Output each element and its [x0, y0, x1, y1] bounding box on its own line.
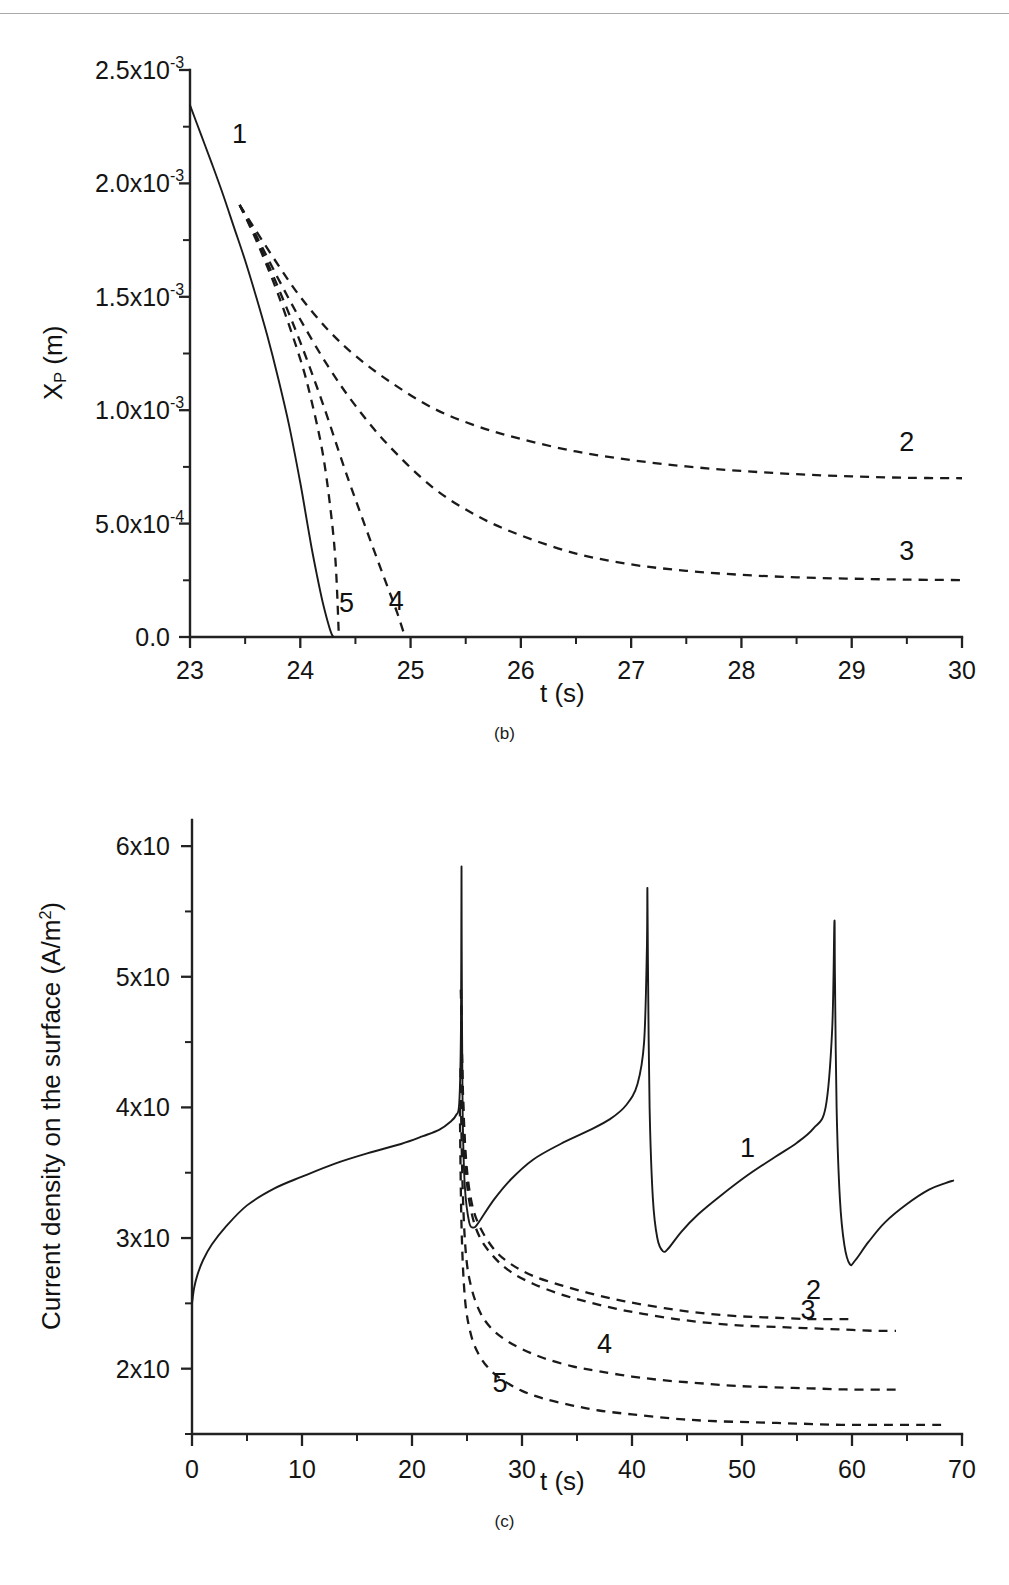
yaxis-b-unit: (m)	[38, 326, 68, 372]
svg-text:70: 70	[948, 1455, 976, 1483]
svg-text:3x10: 3x10	[116, 1224, 170, 1252]
figure-c: 6x105x104x103x102x1001020304050607012345	[0, 760, 1009, 1585]
svg-text:5: 5	[492, 1368, 507, 1398]
curve-2	[461, 990, 852, 1319]
curve-5	[460, 1107, 946, 1425]
svg-text:1: 1	[232, 119, 247, 149]
figure-page: 2.5x10-32.0x10-31.5x10-31.0x10-35.0x10-4…	[0, 0, 1009, 1585]
svg-text:50: 50	[728, 1455, 756, 1483]
svg-text:2.0x10: 2.0x10	[95, 169, 170, 197]
figure-c-caption: (c)	[0, 1512, 1009, 1532]
figure-c-xaxis-title: t (s)	[540, 1466, 585, 1497]
svg-text:1: 1	[740, 1133, 755, 1163]
figure-b: 2.5x10-32.0x10-31.5x10-31.0x10-35.0x10-4…	[0, 0, 1009, 790]
svg-text:2x10: 2x10	[116, 1355, 170, 1383]
svg-text:1.0x10: 1.0x10	[95, 396, 170, 424]
svg-text:3: 3	[899, 536, 914, 566]
figure-b-xaxis-title: t (s)	[540, 678, 585, 709]
svg-text:27: 27	[617, 656, 645, 684]
svg-text:20: 20	[398, 1455, 426, 1483]
yaxis-c-main: Current density on the surface (A/m	[36, 920, 66, 1330]
curve-1	[192, 866, 953, 1303]
svg-text:60: 60	[838, 1455, 866, 1483]
svg-text:40: 40	[618, 1455, 646, 1483]
svg-text:3: 3	[800, 1295, 815, 1325]
svg-text:5.0x10: 5.0x10	[95, 510, 170, 538]
svg-text:28: 28	[728, 656, 756, 684]
svg-text:-3: -3	[170, 281, 184, 298]
svg-text:6x10: 6x10	[116, 832, 170, 860]
svg-text:-3: -3	[170, 394, 184, 411]
figure-c-yaxis-title: Current density on the surface (A/m2)	[36, 902, 67, 1330]
svg-text:-4: -4	[170, 508, 184, 525]
svg-text:25: 25	[397, 656, 425, 684]
svg-text:4: 4	[597, 1329, 612, 1359]
svg-text:30: 30	[508, 1455, 536, 1483]
svg-text:1.5x10: 1.5x10	[95, 283, 170, 311]
svg-text:0.0: 0.0	[135, 623, 170, 651]
svg-text:-3: -3	[170, 167, 184, 184]
plot-b-svg: 2.5x10-32.0x10-31.5x10-31.0x10-35.0x10-4…	[0, 0, 1009, 790]
svg-text:23: 23	[176, 656, 204, 684]
svg-text:2: 2	[899, 427, 914, 457]
yaxis-b-main: X	[38, 383, 68, 400]
svg-text:26: 26	[507, 656, 535, 684]
curve-4	[460, 1068, 896, 1389]
svg-text:2.5x10: 2.5x10	[95, 56, 170, 84]
svg-text:30: 30	[948, 656, 976, 684]
svg-text:5: 5	[339, 588, 354, 618]
svg-text:4x10: 4x10	[116, 1093, 170, 1121]
svg-text:0: 0	[185, 1455, 199, 1483]
figure-b-yaxis-title: XP (m)	[38, 326, 70, 400]
curve-2	[240, 205, 962, 478]
svg-text:4: 4	[389, 586, 404, 616]
yaxis-b-sub: P	[51, 372, 69, 383]
figure-b-caption: (b)	[0, 724, 1009, 744]
curve-3	[240, 205, 962, 580]
yaxis-c-sup: 2	[36, 911, 54, 920]
yaxis-c-tail: )	[36, 902, 66, 911]
curve-5	[240, 205, 339, 637]
curve-4	[240, 205, 405, 637]
svg-text:-3: -3	[170, 54, 184, 71]
svg-text:24: 24	[286, 656, 314, 684]
svg-text:29: 29	[838, 656, 866, 684]
plot-c-svg: 6x105x104x103x102x1001020304050607012345	[0, 760, 1009, 1585]
svg-text:10: 10	[288, 1455, 316, 1483]
svg-text:5x10: 5x10	[116, 963, 170, 991]
